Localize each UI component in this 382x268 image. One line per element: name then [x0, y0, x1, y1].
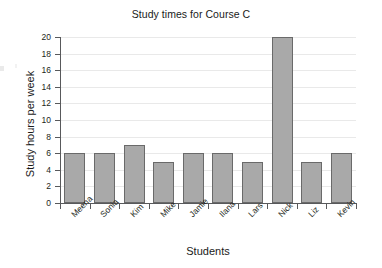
y-tick-label: 12: [29, 98, 51, 108]
y-tick-mark: [55, 170, 60, 171]
plot-area: [60, 37, 356, 203]
x-tick-mark: [267, 204, 268, 209]
y-tick-label: 20: [29, 32, 51, 42]
gridline: [60, 137, 356, 138]
x-tick-mark: [326, 204, 327, 209]
gridline: [60, 87, 356, 88]
scan-artifact-left-2: [15, 64, 17, 68]
y-tick-mark: [55, 70, 60, 71]
bar: [94, 153, 115, 203]
x-tick-label: Kim: [128, 202, 145, 219]
chart-title: Study times for Course C: [0, 8, 382, 20]
gridline: [60, 103, 356, 104]
y-tick-mark: [55, 87, 60, 88]
x-tick-mark: [149, 204, 150, 209]
y-tick-label: 14: [29, 82, 51, 92]
bar: [212, 153, 233, 203]
x-tick-mark: [178, 204, 179, 209]
x-tick-mark: [297, 204, 298, 209]
y-tick-label: 4: [29, 165, 51, 175]
y-tick-label: 18: [29, 49, 51, 59]
y-tick-mark: [55, 103, 60, 104]
gridline: [60, 120, 356, 121]
bar: [183, 153, 204, 203]
bar: [301, 162, 322, 204]
y-tick-mark: [55, 186, 60, 187]
x-tick-label: Liz: [306, 204, 321, 219]
y-tick-label: 10: [29, 115, 51, 125]
gridline: [60, 37, 356, 38]
y-tick-label: 8: [29, 132, 51, 142]
y-tick-mark: [55, 54, 60, 55]
gridline: [60, 70, 356, 71]
bar: [242, 162, 263, 204]
y-tick-mark: [55, 37, 60, 38]
x-tick-mark: [60, 204, 61, 209]
x-tick-mark: [238, 204, 239, 209]
y-tick-mark: [55, 120, 60, 121]
bar-chart: Study times for Course C Study hours per…: [0, 0, 382, 268]
y-tick-mark: [55, 137, 60, 138]
y-tick-mark: [55, 153, 60, 154]
bar: [124, 145, 145, 203]
bar: [153, 162, 174, 204]
y-tick-label: 6: [29, 148, 51, 158]
bar: [64, 153, 85, 203]
gridline: [60, 54, 356, 55]
y-tick-label: 0: [29, 198, 51, 208]
y-tick-label: 2: [29, 181, 51, 191]
x-axis-title: Students: [60, 245, 356, 257]
bar: [331, 153, 352, 203]
scan-artifact-left: [0, 66, 4, 71]
y-tick-label: 16: [29, 65, 51, 75]
y-axis-line: [60, 37, 61, 204]
bar: [272, 37, 293, 203]
